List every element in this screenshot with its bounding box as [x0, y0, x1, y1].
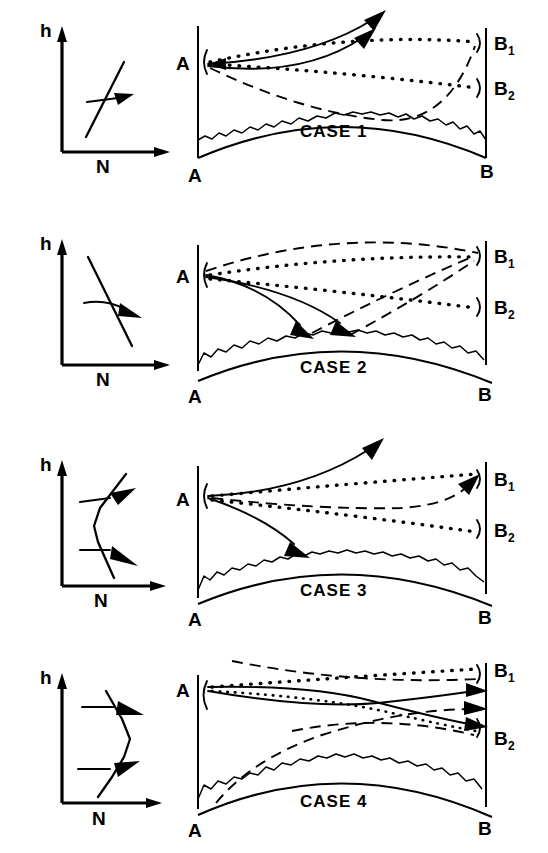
ray-solid-secondary-arrowhead: [354, 28, 376, 49]
ray-solid-ducted-2: [206, 277, 340, 323]
ground-label-a: A: [188, 386, 202, 407]
ray-solid-escaping-arrowhead: [364, 10, 386, 31]
antenna-bracket-a: [204, 484, 207, 508]
inset-x-axis-label: N: [96, 156, 110, 177]
terminal-label-b1-sub: 1: [508, 257, 515, 271]
inset-gradient-arrowhead-upper: [116, 701, 144, 715]
terminal-label-b1-sub: 1: [508, 671, 515, 685]
ray-dotted-to-b2: [210, 279, 476, 308]
antenna-bracket-b1: [477, 247, 480, 265]
terminal-label-b2: B: [494, 728, 508, 749]
ground-label-a: A: [188, 165, 202, 186]
inset-gradient-arrowhead: [114, 93, 134, 105]
inset-gradient-arrowhead: [118, 303, 142, 318]
terminal-label-b1: B: [494, 33, 508, 54]
ray-panel-case-3: A B 1 B 2 A B CASE 3: [172, 426, 548, 639]
terminal-label-b2-sub: 2: [508, 531, 515, 545]
inset-x-axis-arrowhead: [150, 581, 166, 591]
terminal-label-b2-sub: 2: [508, 308, 515, 322]
antenna-bracket-b2: [477, 79, 480, 97]
inset-x-axis-label: N: [96, 369, 110, 390]
inset-gradient-arrowhead-lower: [110, 546, 138, 566]
inset-gradient-arrowhead-lower: [114, 761, 140, 777]
antenna-bracket-b1: [477, 470, 480, 488]
ray-dotted-to-b1: [212, 669, 476, 687]
terminal-label-b2-sub: 2: [508, 89, 515, 103]
inset-panel-case-1: h N: [14, 0, 182, 213]
ray-panel-case-4: A B 1 B 2 A B CASE 4: [172, 639, 548, 852]
inset-panel-case-3: h N: [14, 426, 182, 639]
ray-solid-crossing-down-arrowhead: [464, 717, 488, 731]
inset-panel-case-4: h N: [14, 639, 182, 852]
origin-label-a: A: [176, 489, 190, 510]
terminal-label-b2: B: [494, 297, 508, 318]
ray-dotted-to-b2: [210, 64, 477, 88]
case-label-4: CASE 4: [300, 792, 367, 811]
inset-y-axis-label: h: [40, 667, 52, 688]
origin-label-a: A: [176, 53, 190, 74]
case-row-2: h N: [0, 213, 548, 426]
terminal-label-b1: B: [494, 660, 508, 681]
refractivity-cases-figure: h N: [0, 0, 548, 853]
terminal-label-b1-sub: 1: [508, 44, 515, 58]
inset-y-axis-label: h: [40, 454, 52, 475]
antenna-bracket-a: [204, 50, 207, 74]
ray-dotted-to-b1: [210, 257, 476, 275]
case-row-3: h N: [0, 426, 548, 639]
inset-x-axis-label: N: [94, 590, 108, 611]
origin-label-a: A: [176, 266, 190, 287]
inset-y-axis-arrowhead: [57, 239, 67, 255]
ground-label-b: B: [478, 818, 492, 839]
ray-panel-case-1: A B 1 B 2 A B CASE 1: [172, 0, 548, 213]
case-label-1: CASE 1: [300, 122, 367, 141]
case-row-1: h N: [0, 0, 548, 213]
ground-label-a: A: [188, 820, 202, 841]
ground-label-b: B: [480, 161, 494, 182]
ray-dashed-high-to-b1: [206, 242, 478, 271]
inset-gradient-arrow-line: [84, 302, 124, 309]
inset-gradient-arrow-line: [87, 98, 118, 102]
ray-middle-arrowhead: [464, 701, 488, 715]
terminal-label-b2: B: [494, 78, 508, 99]
antenna-bracket-b1: [477, 34, 480, 52]
terminal-label-b1-sub: 1: [508, 480, 515, 494]
inset-profile-line: [94, 474, 126, 578]
inset-y-axis-arrowhead: [57, 673, 67, 689]
terminal-label-b1: B: [494, 246, 508, 267]
case-row-4: h N: [0, 639, 548, 852]
ground-label-b: B: [478, 384, 492, 405]
origin-label-a: A: [176, 680, 190, 701]
ground-label-b: B: [478, 607, 492, 628]
ray-solid-ducted-2-arrowhead: [330, 321, 356, 337]
inset-x-axis-arrowhead: [154, 360, 170, 370]
terminal-label-b2: B: [494, 520, 508, 541]
case-label-2: CASE 2: [300, 358, 367, 377]
terminal-label-b2-sub: 2: [508, 739, 515, 753]
inset-y-axis-arrowhead: [57, 26, 67, 42]
ray-solid-escaping: [208, 20, 372, 64]
inset-panel-case-2: h N: [14, 213, 182, 426]
ray-solid-crossing-up-arrowhead: [466, 683, 488, 697]
antenna-bracket-b1: [477, 665, 480, 683]
inset-x-axis-arrowhead: [154, 147, 170, 157]
inset-y-axis-arrowhead: [57, 460, 67, 476]
ray-dashed-reflected-2: [350, 261, 474, 335]
ray-dashed-subrefracted: [210, 46, 475, 120]
ray-dotted-to-b1: [212, 474, 476, 496]
antenna-bracket-b2: [477, 298, 480, 316]
inset-y-axis-label: h: [40, 20, 52, 41]
ray-solid-ground-impact-arrowhead: [284, 542, 310, 558]
ray-solid-ducted-1: [206, 275, 300, 325]
ray-dotted-to-b1: [210, 40, 477, 63]
ray-solid-escaping-arrowhead: [362, 438, 384, 460]
inset-y-axis-label: h: [40, 233, 52, 254]
terminal-label-b1: B: [494, 469, 508, 490]
ray-panel-case-2: A B 1 B 2 A B CASE 2: [172, 213, 548, 426]
inset-x-axis-label: N: [92, 808, 106, 829]
ray-solid-ducted-1-arrowhead: [290, 321, 314, 339]
antenna-bracket-a: [204, 681, 208, 709]
inset-x-axis-arrowhead: [146, 798, 162, 808]
ray-solid-crossing-down: [208, 687, 474, 725]
ground-label-a: A: [188, 609, 202, 630]
antenna-bracket-b2: [477, 520, 480, 538]
